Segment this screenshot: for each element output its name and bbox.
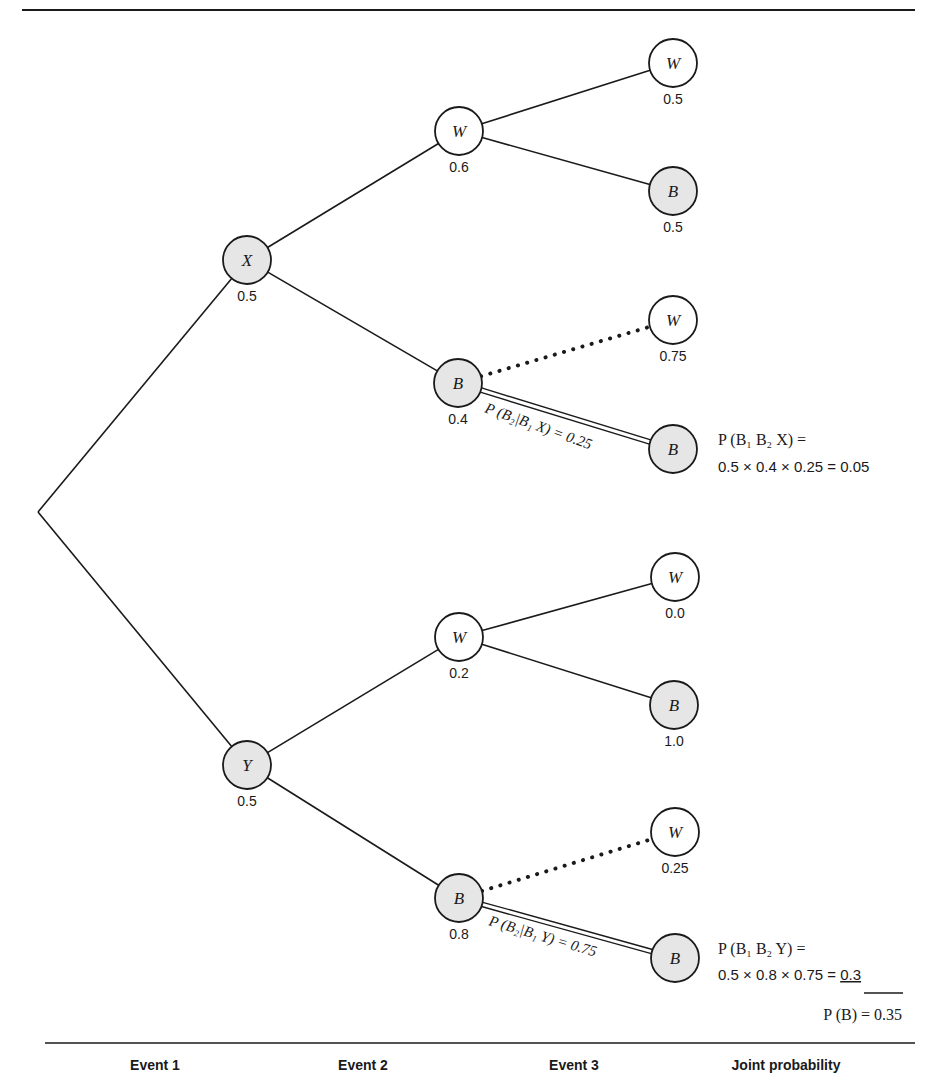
- node-probability: 0.0: [665, 605, 685, 621]
- edge-yw-yww: [482, 583, 652, 630]
- tree-nodes: X0.5Y0.5W0.6B0.4W0.2B0.8W0.5B0.5W0.75BW0…: [223, 39, 699, 982]
- node-probability: 0.75: [659, 348, 686, 364]
- node-x: X0.5: [223, 236, 271, 304]
- joint-y-line2: 0.5 × 0.8 × 0.75 = 0.3: [718, 966, 861, 983]
- edge-yb-ybw: [482, 839, 652, 891]
- node-probability: 1.0: [664, 733, 684, 749]
- edge-xb-xbw: [481, 327, 650, 377]
- node-y: Y0.5: [223, 741, 271, 809]
- node-letter: W: [666, 54, 682, 73]
- joint-y-line2-prefix: 0.5 × 0.8 × 0.75 =: [718, 966, 840, 983]
- edge-x-xw: [268, 143, 439, 247]
- node-xbw: W0.75: [649, 296, 697, 364]
- node-probability: 0.8: [449, 926, 469, 942]
- node-ybw: W0.25: [651, 808, 699, 876]
- node-xb: B0.4: [434, 359, 482, 427]
- node-letter: W: [452, 628, 468, 647]
- node-yw: W0.2: [435, 613, 483, 681]
- node-letter: B: [668, 440, 679, 459]
- node-probability: 0.6: [449, 159, 469, 175]
- node-xw: W0.6: [435, 107, 483, 175]
- node-letter: B: [669, 696, 680, 715]
- node-letter: X: [241, 251, 253, 270]
- node-probability: 0.5: [663, 219, 683, 235]
- node-letter: B: [454, 889, 465, 908]
- edge-root-x: [38, 278, 232, 512]
- joint-y-line1: P (B₁ B₂ Y) =: [718, 940, 805, 958]
- edge-x-xb: [268, 272, 438, 371]
- node-yww: W0.0: [651, 553, 699, 621]
- edge-xw-xww: [482, 70, 650, 123]
- node-xbb: B: [649, 425, 697, 473]
- edge-y-yb: [267, 778, 438, 885]
- node-probability: 0.2: [449, 665, 469, 681]
- node-probability: 0.5: [237, 288, 257, 304]
- node-yb: B0.8: [435, 874, 483, 942]
- axis-label-event1: Event 1: [130, 1057, 180, 1073]
- node-probability: 0.4: [448, 411, 468, 427]
- node-ybb: B: [651, 934, 699, 982]
- node-letter: W: [668, 823, 684, 842]
- edge-yw-ywb: [482, 644, 651, 698]
- node-letter: W: [668, 568, 684, 587]
- node-letter: B: [453, 374, 464, 393]
- node-letter: Y: [242, 756, 253, 775]
- axis-label-event2: Event 2: [338, 1057, 388, 1073]
- node-letter: B: [668, 182, 679, 201]
- total-probability: P (B) = 0.35: [823, 1006, 902, 1024]
- node-probability: 0.25: [661, 860, 688, 876]
- node-ywb: B1.0: [650, 681, 698, 749]
- edge-xw-xwb: [482, 137, 650, 184]
- probability-tree: X0.5Y0.5W0.6B0.4W0.2B0.8W0.5B0.5W0.75BW0…: [0, 0, 933, 1091]
- node-letter: B: [670, 949, 681, 968]
- joint-x-line2: 0.5 × 0.4 × 0.25 = 0.05: [718, 458, 869, 475]
- node-probability: 0.5: [237, 793, 257, 809]
- tree-edges: [38, 70, 652, 953]
- edge-y-yw: [268, 649, 439, 752]
- axis-label-event3: Event 3: [549, 1057, 599, 1073]
- node-xww: W0.5: [649, 39, 697, 107]
- node-letter: W: [452, 122, 468, 141]
- joint-y-value: 0.3: [840, 966, 861, 983]
- node-letter: W: [666, 311, 682, 330]
- axis-label-joint: Joint probability: [732, 1057, 841, 1073]
- node-xwb: B0.5: [649, 167, 697, 235]
- edge-root-y: [38, 512, 232, 746]
- joint-x-line1: P (B₁ B₂ X) =: [718, 431, 806, 449]
- edge-label-xbb: P (B₂|B₁ X) = 0.25: [482, 399, 595, 453]
- node-probability: 0.5: [663, 91, 683, 107]
